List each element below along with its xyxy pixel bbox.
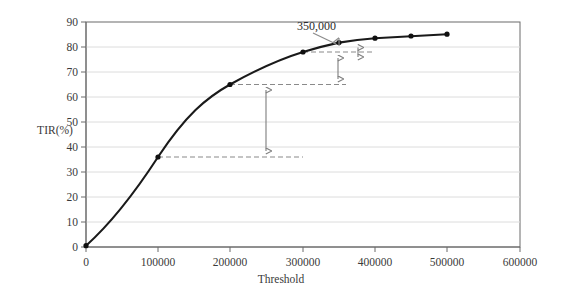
data-point	[444, 32, 449, 37]
data-point	[372, 36, 377, 41]
threshold-callout-label: 350,000	[297, 19, 336, 33]
data-point	[83, 243, 88, 248]
y-tick-label: 20	[67, 191, 79, 203]
x-tick-label: 500000	[430, 256, 465, 268]
data-point	[408, 33, 413, 38]
tir-threshold-line-chart: 90 80 70 60 50 40 30 20 10 0 0 100000 20…	[0, 0, 565, 300]
chart-screenshot: 90 80 70 60 50 40 30 20 10 0 0 100000 20…	[0, 0, 565, 300]
x-tick-label: 400000	[358, 256, 393, 268]
data-point	[336, 40, 341, 45]
y-tick-label: 90	[67, 16, 79, 28]
x-tick-label: 300000	[286, 256, 321, 268]
x-tick-label: 600000	[503, 256, 538, 268]
y-tick-label: 80	[67, 41, 79, 53]
x-axis-title: Threshold	[258, 273, 305, 285]
x-tick-label: 200000	[213, 256, 248, 268]
x-tick-label: 100000	[141, 256, 176, 268]
plot-frame	[86, 22, 520, 247]
y-tick-label: 60	[67, 91, 79, 103]
y-axis-title: TIR(%)	[37, 124, 73, 137]
data-point	[300, 49, 305, 54]
data-point	[227, 82, 232, 87]
y-axis	[81, 22, 86, 247]
y-tick-label: 0	[72, 241, 78, 253]
x-axis	[86, 247, 520, 252]
y-tick-label: 70	[67, 66, 79, 78]
data-point	[155, 154, 160, 159]
y-tick-label: 10	[67, 216, 79, 228]
x-tick-labels: 0 100000 200000 300000 400000 500000 600…	[83, 256, 537, 268]
y-tick-label: 30	[67, 166, 79, 178]
x-tick-label: 0	[83, 256, 89, 268]
y-tick-label: 40	[67, 141, 79, 153]
